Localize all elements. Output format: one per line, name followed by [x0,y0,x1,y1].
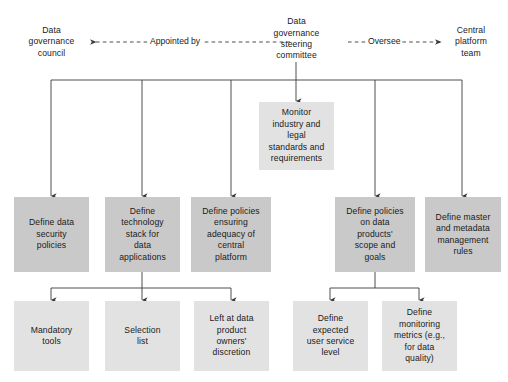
node-data-governance-council: Data governance council [14,18,89,66]
node-steering-committee: Data governance steering committee [259,12,334,66]
node-define-technology-stack: Define technology stack for data applica… [105,197,180,272]
node-owners-discretion: Left at data product owners' discretion [194,301,269,371]
node-mandatory-tools: Mandatory tools [14,301,89,371]
node-central-platform-team: Central platform team [441,18,501,66]
label-appointed-by: Appointed by [148,36,202,47]
node-define-monitoring-metrics: Define monitoring metrics (e.g., for dat… [382,301,457,371]
governance-diagram: Data governance council Data governance … [0,0,508,382]
label-oversee: Oversee [366,36,402,47]
node-define-data-security-policies: Define data security policies [14,197,89,272]
node-define-master-metadata-rules: Define master and metadata management ru… [425,197,501,272]
node-define-user-service-level: Define expected user service level [293,301,368,371]
node-monitor-standards: Monitor industry and legal standards and… [259,102,334,170]
node-selection-list: Selection list [105,301,180,371]
node-define-central-platform-policies: Define policies ensuring adequacy of cen… [191,197,271,272]
node-define-data-product-policies: Define policies on data products' scope … [335,197,415,272]
